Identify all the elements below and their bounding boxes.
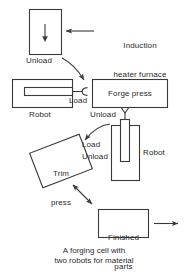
robot-right-label: Robot (143, 148, 165, 158)
robot-right-arm (121, 120, 130, 162)
robot-left-arm (25, 88, 73, 96)
forge-press-unload-label: Unload (90, 110, 116, 120)
figure-caption-line1: A forging cell with (0, 246, 188, 256)
forge-press-label: Forge press (92, 89, 168, 99)
trim-press-label-line1: Trim (40, 169, 82, 179)
forge-press-y-gripper (122, 108, 129, 113)
robot-left-label: Robot (29, 110, 51, 120)
furnace-label-line1: Induction (96, 41, 184, 51)
robot-left-load-label: Load (69, 96, 87, 106)
figure-caption-line2: two robots for material (0, 256, 188, 266)
furnace-label: Induction heater furnace (96, 22, 184, 98)
trim-press-label: Trim press (40, 150, 82, 226)
figure-caption: A forging cell with two robots for mater… (0, 246, 188, 266)
trim-press-load-label: Load (82, 140, 100, 150)
flow-forge-to-trim (85, 124, 110, 140)
flow-furnace-to-forge (62, 58, 84, 80)
trim-press-unload-label: Unload (82, 152, 108, 162)
furnace-unload-label: Unload (26, 56, 52, 66)
furnace-label-line2: heater furnace (96, 70, 184, 80)
finished-parts-label-line1: Finished (98, 233, 149, 243)
trim-press-label-line2: press (40, 198, 82, 208)
robot-left-c-gripper (82, 88, 87, 96)
